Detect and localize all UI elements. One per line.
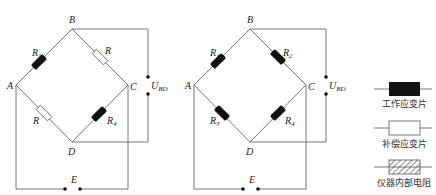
compensation-gauge-symbol [389,121,420,135]
node-label-d: D [245,146,254,157]
left-bridge-circuit: B A C D E R1 R R R4 UBD [6,14,168,191]
resistor-label-r4: R4 [284,115,295,128]
legend-item-internal-resistor: 仪器内部电阻 [374,160,432,188]
terminal-dot [146,92,150,96]
legend-label: 工作应变片 [382,98,427,109]
voltage-label-ubd: UBD [329,80,346,93]
terminal-dot [324,92,328,96]
terminal-dot [78,187,82,191]
terminal-dot [256,187,260,191]
terminal-dot [241,187,245,191]
legend-label: 仪器内部电阻 [377,177,431,188]
bridge-circuits-diagram: B A C D E R1 R R R4 UBD [0,0,436,195]
node-label-c: C [130,81,137,92]
node-label-a: A [6,80,14,91]
terminal-dot [324,75,328,79]
node-label-e: E [70,174,77,185]
legend-item-compensation-gauge: 补偿应变片 [374,121,432,149]
resistor-label-r1: R1 [209,47,220,60]
node-label-b: B [69,14,75,25]
node-label-e: E [248,174,255,185]
working-gauge-symbol [389,82,420,96]
resistor-label-r: R [104,45,111,56]
legend: 工作应变片 补偿应变片 仪器内部电阻 [374,82,432,188]
resistor-label-r: R [32,115,39,126]
right-bridge-circuit: B A C D E R1 R2 R3 R4 UBD [184,14,346,191]
terminal-dot [146,75,150,79]
legend-item-working-gauge: 工作应变片 [374,82,432,109]
node-label-b: B [247,14,253,25]
voltage-label-ubd: UBD [151,80,168,93]
node-label-c: C [308,81,315,92]
terminal-dot [63,187,67,191]
resistor-label-r1: R1 [31,47,42,60]
legend-label: 补偿应变片 [382,138,427,149]
resistor-label-r3: R3 [209,115,220,128]
node-label-d: D [67,146,76,157]
internal-resistor-symbol [389,160,420,174]
resistor-label-r4: R4 [106,115,117,128]
node-label-a: A [184,80,192,91]
